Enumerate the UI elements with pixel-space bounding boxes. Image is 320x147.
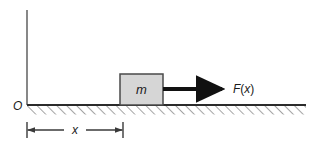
displacement-label: x: [71, 123, 79, 137]
force-label: F(x): [233, 82, 254, 96]
origin-label: O: [13, 99, 22, 113]
mass-label: m: [136, 82, 147, 97]
physics-diagram-figure: O m x F(x): [0, 0, 320, 147]
force-close-paren-glyph: ): [250, 82, 254, 96]
diagram-canvas: O m x F(x): [0, 0, 320, 147]
ground-hatching: [27, 106, 306, 115]
